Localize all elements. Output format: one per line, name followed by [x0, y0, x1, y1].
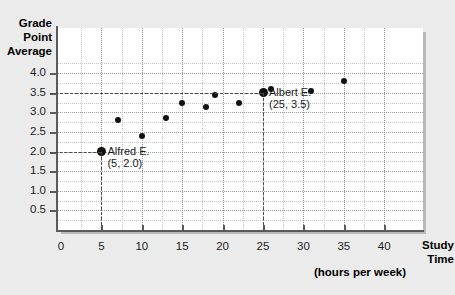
- x-axis-tick-label: 30: [283, 240, 323, 252]
- gridline-vertical: [142, 28, 143, 231]
- x-axis-tick: [303, 225, 305, 232]
- gridline-horizontal: [57, 112, 423, 113]
- y-axis-title: Grade Point Average: [0, 16, 52, 59]
- x-axis-tick-label: 25: [243, 240, 283, 252]
- data-point[interactable]: [341, 78, 347, 84]
- gridline-horizontal: [57, 171, 423, 172]
- y-axis-tick-label: 2.0: [0, 145, 46, 157]
- y-axis-tick-label: 3.0: [0, 105, 46, 117]
- y-axis-tick: [50, 191, 58, 193]
- gridline-horizontal: [57, 122, 423, 123]
- x-axis-tick-label: 20: [203, 240, 243, 252]
- x-axis-tick: [182, 225, 184, 232]
- gridline-horizontal: [57, 132, 423, 133]
- y-axis-title-line-3: Average: [0, 44, 52, 58]
- y-axis-tick: [50, 73, 58, 75]
- y-axis-tick: [50, 132, 58, 134]
- x-axis-tick-label: 5: [81, 240, 121, 252]
- gridline-vertical: [384, 28, 385, 231]
- x-axis-title-line-2: Time: [396, 252, 454, 266]
- x-axis-title: StudyTime: [396, 238, 454, 266]
- annotation-alfred-name: Alfred E.: [107, 145, 149, 158]
- gridline-vertical: [223, 28, 224, 231]
- x-axis-subtitle: (hours per week): [270, 266, 450, 278]
- x-axis-tick: [384, 225, 386, 232]
- data-point[interactable]: [115, 117, 121, 123]
- gridline-horizontal: [57, 201, 423, 202]
- y-axis-title-line-2: Point: [0, 30, 52, 44]
- gridline-horizontal: [57, 73, 423, 74]
- annotation-albert-coords: (25, 3.5): [269, 98, 311, 111]
- gridline-vertical: [81, 28, 82, 231]
- x-axis-tick-label: 10: [122, 240, 162, 252]
- annotation-alfred: Alfred E.(5, 2.0): [107, 145, 149, 170]
- gridline-vertical: [324, 28, 325, 231]
- plot-area: [57, 28, 423, 231]
- y-axis-tick: [50, 210, 58, 212]
- y-axis-tick: [50, 112, 58, 114]
- gridline-vertical: [182, 28, 183, 231]
- data-point[interactable]: [236, 100, 242, 106]
- x-axis-tick: [142, 225, 144, 232]
- gridline-horizontal: [57, 142, 423, 143]
- annotation-alfred-coords: (5, 2.0): [107, 157, 149, 170]
- y-axis-tick-label: 4.0: [0, 66, 46, 78]
- chart-container: 0.51.01.52.02.53.03.54.00510152025303540…: [0, 0, 455, 295]
- gridline-vertical: [303, 28, 304, 231]
- y-axis-tick-label: 1.0: [0, 184, 46, 196]
- y-axis-tick-label: 1.5: [0, 164, 46, 176]
- annotation-albert-name: Albert E.: [269, 86, 311, 99]
- x-axis-tick-label: 35: [324, 240, 364, 252]
- x-axis-title-line-1: Study: [396, 238, 454, 252]
- y-axis-tick: [50, 171, 58, 173]
- gridline-vertical: [162, 28, 163, 231]
- gridline-horizontal: [57, 191, 423, 192]
- gridline-horizontal: [57, 181, 423, 182]
- gridline-vertical: [283, 28, 284, 231]
- guide-line-horizontal-albert: [50, 93, 263, 94]
- annotation-albert: Albert E.(25, 3.5): [269, 86, 311, 111]
- gridline-vertical: [122, 28, 123, 231]
- guide-line-vertical-alfred: [101, 152, 102, 230]
- x-axis-tick-label: 0: [41, 240, 81, 252]
- gridline-vertical: [344, 28, 345, 231]
- x-axis-tick: [344, 225, 346, 232]
- x-axis-tick: [223, 225, 225, 232]
- gridline-vertical: [243, 28, 244, 231]
- data-point[interactable]: [179, 100, 185, 106]
- y-axis-tick-label: 3.5: [0, 86, 46, 98]
- y-axis-tick-label: 2.5: [0, 125, 46, 137]
- gridline-horizontal: [57, 83, 423, 84]
- data-point[interactable]: [203, 104, 209, 110]
- gridline-vertical: [202, 28, 203, 231]
- guide-line-horizontal-alfred: [50, 152, 101, 153]
- gridline-vertical: [364, 28, 365, 231]
- y-axis-tick-label: 0.5: [0, 203, 46, 215]
- guide-line-vertical-albert: [263, 93, 264, 230]
- data-point[interactable]: [139, 133, 145, 139]
- gridline-horizontal: [57, 210, 423, 211]
- x-axis-line: [56, 230, 424, 232]
- y-axis-line: [56, 26, 58, 232]
- gridline-horizontal: [57, 63, 423, 64]
- y-axis-title-line-1: Grade: [0, 16, 52, 30]
- x-axis-tick-label: 15: [162, 240, 202, 252]
- gridline-horizontal: [57, 220, 423, 221]
